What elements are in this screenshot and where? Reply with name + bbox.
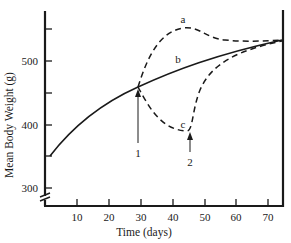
body-weight-chart: 500 400 300 10 20 30 40 50 60 70 Time (d…	[0, 0, 291, 243]
y-axis-label: Mean Body Weight (g)	[3, 72, 16, 178]
x-tick-labels: 10 20 30 40 50 60 70	[72, 211, 275, 223]
y-tick-500: 500	[22, 55, 39, 67]
arrow-1-label: 1	[135, 147, 141, 159]
y-tick-300: 300	[22, 182, 39, 194]
curve-a-label: a	[181, 13, 186, 25]
arrow-2: 2	[187, 132, 193, 168]
curve-b	[50, 40, 282, 156]
y-tick-400: 400	[22, 119, 39, 131]
x-tick-40: 40	[168, 211, 180, 223]
x-tick-70: 70	[263, 211, 275, 223]
x-tick-20: 20	[104, 211, 116, 223]
x-tick-50: 50	[200, 211, 212, 223]
curve-c-label: c	[181, 118, 186, 130]
arrow-2-label: 2	[187, 156, 193, 168]
curve-b-label: b	[175, 53, 181, 65]
arrow-1: 1	[135, 89, 141, 159]
curve-c	[138, 41, 282, 131]
y-tick-labels: 500 400 300	[22, 55, 39, 194]
arrow-up-icon	[187, 132, 193, 140]
x-tick-30: 30	[136, 211, 148, 223]
x-tick-10: 10	[72, 211, 84, 223]
x-axis-label: Time (days)	[116, 226, 172, 239]
x-tick-60: 60	[231, 211, 243, 223]
